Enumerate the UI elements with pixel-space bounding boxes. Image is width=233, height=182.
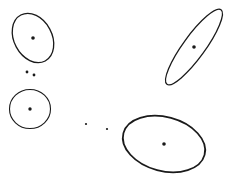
isolated-point [85,123,87,125]
ellipse-bottom-right [116,107,211,181]
isolated-point [33,74,36,77]
isolated-point [26,71,29,74]
ellipse-long-diagonal [158,3,230,90]
circle-left [10,90,51,129]
diagram-canvas [0,0,233,182]
ellipse-center-point [28,107,31,110]
ellipse-top-left [4,6,62,70]
isolated-point [106,128,108,130]
ellipse-center-point [192,45,196,49]
ellipse-diagram [0,0,233,182]
ellipse-center-point [162,142,166,146]
ellipse-center-point [31,36,35,40]
